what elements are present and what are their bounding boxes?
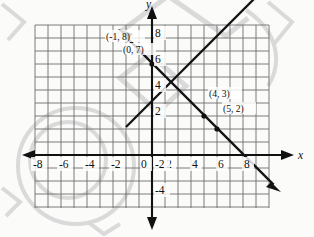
x-tick-label: 4 — [192, 158, 198, 170]
y-tick-label: -2 — [155, 158, 165, 170]
watermark-chevron-bottom — [88, 222, 120, 234]
coordinate-plane-figure: -8 -6 -4 -2 2 4 6 8 8 6 4 2 — [0, 0, 314, 237]
origin-label: 0 — [141, 158, 147, 170]
point-label-4-3: (4, 3) — [209, 88, 230, 100]
x-tick-label: -6 — [59, 158, 69, 170]
point-label-5-2: (5, 2) — [223, 103, 244, 115]
graph-screenshot: -8 -6 -4 -2 2 4 6 8 8 6 4 2 — [0, 0, 314, 237]
watermark-arc-right — [246, 10, 276, 86]
watermark-chevron-bottomleft — [2, 188, 20, 216]
point-dot-0-7 — [149, 61, 154, 66]
x-tick-label: -8 — [33, 158, 43, 170]
y-axis-name: y — [145, 0, 152, 11]
y-tick-label: -4 — [155, 184, 165, 196]
y-tick-label: 2 — [155, 105, 161, 117]
y-tick-label: 4 — [155, 79, 161, 91]
x-tick-label: -2 — [111, 158, 121, 170]
point-label-0-7: (0, 7) — [123, 44, 144, 56]
point-dot-5-2 — [214, 126, 219, 131]
point-dot-4-3 — [201, 113, 206, 118]
y-tick-label: 8 — [155, 27, 161, 39]
y-axis-arrow-down — [147, 217, 157, 230]
x-tick-label: 8 — [244, 158, 250, 170]
x-tick-label: 6 — [218, 158, 224, 170]
x-axis-arrow-right — [281, 150, 294, 160]
x-axis-name: x — [297, 149, 304, 161]
point-label-neg1-8: (-1, 8) — [106, 31, 130, 43]
watermark-layer — [2, 0, 292, 234]
x-tick-label: -4 — [85, 158, 95, 170]
watermark-chevron-left — [2, 4, 24, 40]
